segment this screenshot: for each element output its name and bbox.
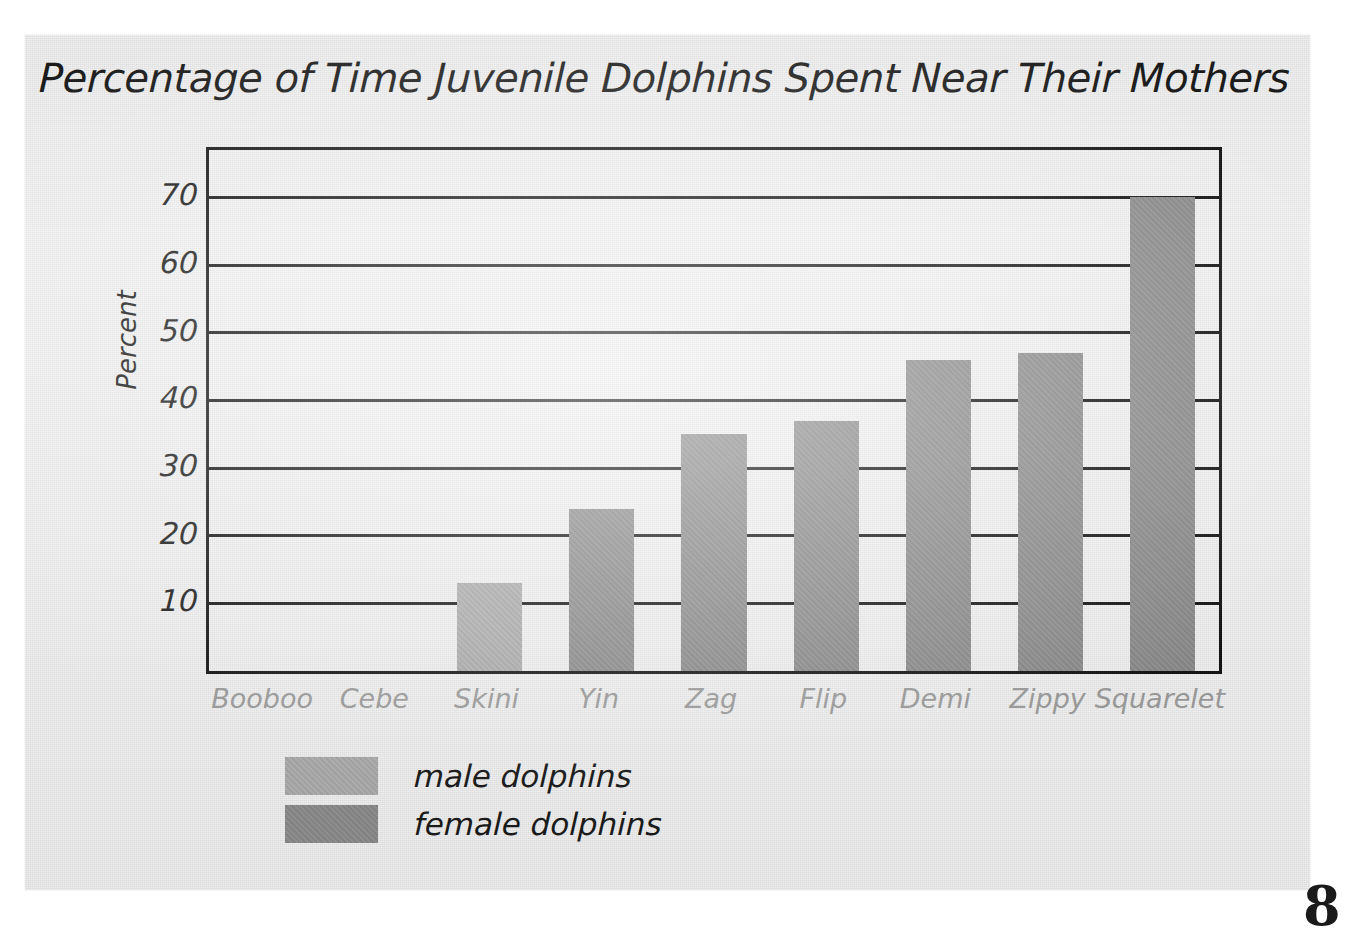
y-tick-label-10: 10 (159, 583, 199, 618)
legend-swatch-male (285, 757, 378, 795)
bar-yin[interactable] (569, 509, 634, 671)
y-tick-label-20: 20 (159, 515, 199, 550)
chart-legend: male dolphinsfemale dolphins (285, 755, 662, 851)
scanned-page-panel: Percentage of Time Juvenile Dolphins Spe… (25, 35, 1310, 890)
legend-label-female: female dolphins (413, 806, 662, 842)
y-axis-tick-labels: 10203040506070 (120, 147, 198, 674)
page-corner-mark: 8 (1303, 880, 1347, 928)
x-axis-tick-labels: BoobooCebeSkiniYinZagFlipDemiZippySquare… (206, 683, 1222, 733)
y-tick-label-30: 30 (159, 448, 199, 483)
y-tick-label-60: 60 (159, 245, 199, 280)
bar-skini[interactable] (457, 583, 522, 671)
bar-zag[interactable] (681, 434, 746, 671)
x-tick-label-demi: Demi (900, 683, 971, 714)
y-tick-label-50: 50 (159, 312, 199, 347)
x-tick-label-yin: Yin (578, 683, 619, 714)
x-tick-label-zag: Zag (685, 683, 737, 714)
bar-zippy[interactable] (1018, 353, 1083, 671)
y-tick-label-40: 40 (159, 380, 199, 415)
x-tick-label-skini: Skini (454, 683, 519, 714)
gridline-70 (209, 196, 1219, 199)
legend-item-male[interactable]: male dolphins (285, 755, 662, 797)
y-tick-label-70: 70 (159, 177, 199, 212)
bar-squarelet[interactable] (1130, 197, 1195, 671)
plot-area (206, 147, 1222, 674)
chart-title: Percentage of Time Juvenile Dolphins Spe… (38, 55, 1300, 101)
x-tick-label-cebe: Cebe (340, 683, 409, 714)
x-tick-label-flip: Flip (799, 683, 847, 714)
legend-label-male: male dolphins (413, 758, 632, 794)
legend-item-female[interactable]: female dolphins (285, 803, 662, 845)
x-tick-label-zippy: Zippy (1010, 683, 1086, 714)
x-tick-label-booboo: Booboo (211, 683, 313, 714)
gridline-60 (209, 264, 1219, 267)
x-tick-label-squarelet: Squarelet (1095, 683, 1225, 714)
bar-demi[interactable] (906, 360, 971, 671)
legend-swatch-female (285, 805, 378, 843)
bar-flip[interactable] (794, 421, 859, 671)
gridline-50 (209, 331, 1219, 334)
